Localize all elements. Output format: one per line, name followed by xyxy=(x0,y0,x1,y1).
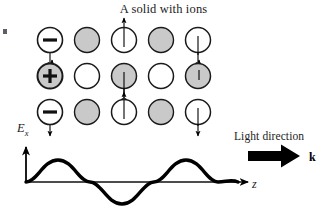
y-axis-label-main: E xyxy=(17,121,25,135)
ion-r3c3 xyxy=(112,92,137,125)
plus-sign-vertical xyxy=(48,69,51,83)
ion-r2c2 xyxy=(75,64,100,89)
wave-vector-k-label: k xyxy=(309,150,316,165)
ion-r2c4 xyxy=(149,64,174,89)
light-direction-label: Light direction xyxy=(234,130,304,142)
ion-lattice xyxy=(0,0,327,140)
ion-r1c5 xyxy=(186,28,211,68)
minus-sign xyxy=(43,110,57,113)
figure-canvas: A solid with ions xyxy=(0,0,327,218)
minus-sign xyxy=(43,38,57,41)
ion-r2c5 xyxy=(186,60,211,89)
ion-r3c2 xyxy=(75,100,100,125)
ion-r1c1 xyxy=(38,28,63,68)
ion-r2c1 xyxy=(38,60,63,89)
x-axis-label: z xyxy=(252,177,257,192)
ion-r3c1 xyxy=(38,100,63,137)
light-direction-arrow-icon xyxy=(248,144,308,168)
ion-r1c4 xyxy=(149,28,174,53)
ion-r3c4 xyxy=(149,100,174,125)
ion-r1c2 xyxy=(75,28,100,53)
electric-field-wave-plot xyxy=(0,135,270,218)
ion-r1c3 xyxy=(112,18,137,53)
ion-r3c5 xyxy=(186,100,211,137)
